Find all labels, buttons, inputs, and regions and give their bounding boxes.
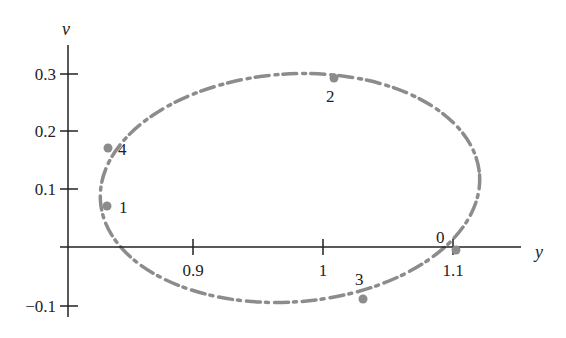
- x-axis: [60, 239, 521, 255]
- svg-text:0: 0: [436, 228, 445, 247]
- y-axis-label: v: [62, 19, 70, 39]
- x-tick-1: 1: [319, 261, 328, 280]
- y-tick-neg-0.1: −0.1: [25, 297, 56, 316]
- point-2: 2: [326, 74, 339, 107]
- x-tick-0.9: 0.9: [182, 261, 203, 280]
- y-axis: [60, 45, 78, 317]
- point-3: 3: [355, 270, 368, 304]
- y-tick-0.3: 0.3: [35, 65, 56, 84]
- svg-text:4: 4: [118, 140, 127, 159]
- svg-text:2: 2: [326, 87, 335, 106]
- trajectory-curve: [93, 61, 488, 315]
- point-1: 1: [103, 198, 128, 217]
- x-axis-label: y: [533, 242, 543, 262]
- x-tick-1.1: 1.1: [442, 261, 463, 280]
- y-tick-0.2: 0.2: [35, 122, 56, 141]
- svg-text:3: 3: [355, 270, 364, 289]
- phase-plot: v y 0.3 0.2 0.1 −0.1 0.9 1 1.1 0 1 2 3 4: [0, 0, 566, 338]
- y-tick-0.1: 0.1: [35, 180, 56, 199]
- svg-text:1: 1: [119, 198, 128, 217]
